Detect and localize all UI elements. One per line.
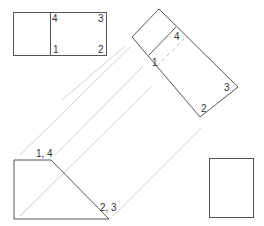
front-view (14, 13, 107, 56)
projection-line-2 (55, 66, 143, 155)
label-aux-4: 4 (174, 31, 180, 42)
side-view-trapezoid (14, 160, 109, 219)
label-front-1: 1 (53, 44, 59, 55)
projection-line-4 (113, 128, 201, 216)
label-side-2-3: 2, 3 (100, 202, 117, 213)
label-aux-2: 2 (201, 103, 207, 114)
orthographic-projection-diagram: 4 3 1 2 4 1 3 2 1, 4 2, 3 (0, 0, 264, 226)
auxiliary-view-outline (132, 9, 238, 117)
auxiliary-view (132, 9, 238, 117)
projection-line-5 (62, 47, 124, 100)
label-front-2: 2 (98, 44, 104, 55)
label-front-3: 3 (98, 13, 104, 24)
label-front-4: 4 (52, 13, 58, 24)
label-aux-3: 3 (224, 82, 230, 93)
projection-lines (20, 47, 201, 216)
projection-line-1 (20, 47, 130, 155)
label-aux-1: 1 (152, 57, 158, 68)
label-side-1-4: 1, 4 (36, 148, 53, 159)
front-view-outline (14, 13, 107, 56)
end-view-rectangle (210, 159, 254, 218)
hidden-line (157, 37, 186, 66)
